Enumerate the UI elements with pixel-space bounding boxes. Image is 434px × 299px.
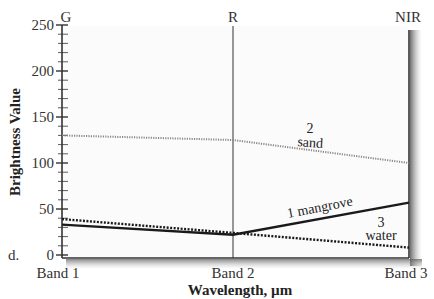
top-label-r: R (228, 9, 238, 25)
brightness-chart: 250 200 150 100 50 0 d. Brightness Value… (0, 0, 434, 299)
y-tick-50: 50 (39, 201, 54, 217)
x-tick-band1: Band 1 (37, 265, 80, 281)
y-tick-150: 150 (32, 109, 55, 125)
plot-shadow-right (410, 30, 422, 266)
y-tick-100: 100 (32, 155, 55, 171)
y-tick-0: 0 (47, 247, 55, 263)
x-axis-title: Wavelength, µm (188, 282, 293, 298)
label-sand-text: sand (297, 134, 324, 151)
y-tick-250: 250 (32, 17, 55, 33)
label-sand-number: 2 (307, 121, 314, 136)
label-water-text: water (365, 228, 396, 243)
top-label-g: G (61, 9, 72, 25)
x-tick-band3: Band 3 (385, 265, 428, 281)
plot-area (62, 26, 409, 258)
y-tick-200: 200 (32, 63, 55, 79)
panel-letter: d. (8, 247, 19, 263)
top-label-nir: NIR (395, 9, 421, 25)
y-axis-title: Brightness Value (7, 88, 23, 196)
x-tick-band2: Band 2 (212, 265, 255, 281)
